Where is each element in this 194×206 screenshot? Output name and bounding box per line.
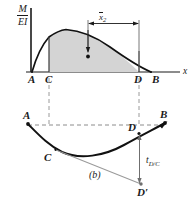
- dimension-label-xbar2: x2: [99, 13, 106, 22]
- label-x-axis: x: [183, 67, 187, 77]
- label-point-C-lower: C: [44, 152, 51, 163]
- dimension-subscript: 2: [103, 16, 106, 23]
- y-axis-label-numerator: M: [17, 4, 28, 15]
- y-axis-label-denominator: EI: [17, 17, 28, 28]
- node-A-lower: [26, 122, 30, 126]
- label-point-B-lower: B: [160, 109, 167, 120]
- label-tangential-deviation: tD/C: [146, 156, 159, 166]
- shaded-area-CD: [49, 30, 139, 73]
- label-point-B-upper: B: [152, 74, 159, 85]
- centroid-dot: [86, 55, 90, 59]
- label-point-A-upper: A: [28, 74, 35, 85]
- dimension-arrowhead-left: [88, 21, 94, 25]
- y-axis-label-m-over-ei: M EI: [17, 4, 28, 27]
- label-point-Dprime: D′: [137, 187, 148, 198]
- label-point-D-lower: D: [128, 122, 136, 133]
- label-point-D-upper: D: [134, 74, 142, 85]
- node-D-lower: [137, 132, 140, 135]
- figure-caption: (b): [89, 170, 101, 180]
- label-point-C-upper: C: [45, 74, 52, 85]
- dimension-arrowhead-right: [133, 21, 139, 25]
- label-point-A-lower: A: [23, 110, 30, 121]
- deviation-subscript: D/C: [149, 160, 160, 167]
- moment-area-figure: M EI x2 A C D B x A C D B D′ tD/C (b): [0, 0, 194, 206]
